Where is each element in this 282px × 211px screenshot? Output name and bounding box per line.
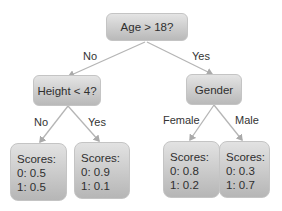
edge-label-gender-male: Male [235, 114, 259, 126]
leaf-height-yes: Scores: 0: 0.9 1: 0.1 [74, 142, 130, 199]
leaf-title: Scores: [81, 151, 129, 165]
leaf-height-no: Scores: 0: 0.5 1: 0.5 [10, 143, 67, 201]
leaf-score-1: 1: 0.7 [226, 178, 269, 192]
leaf-gender-female: Scores: 0: 0.8 1: 0.2 [163, 141, 220, 198]
gender-label: Gender [195, 84, 233, 96]
edge-label-root-yes: Yes [192, 50, 210, 62]
root-label: Age > 18? [121, 21, 174, 33]
root-node: Age > 18? [106, 13, 188, 41]
leaf-score-0: 0: 0.3 [226, 164, 269, 178]
leaf-title: Scores: [170, 150, 219, 164]
leaf-score-0: 0: 0.9 [81, 165, 129, 179]
leaf-gender-male: Scores: 0: 0.3 1: 0.7 [219, 141, 270, 198]
leaf-score-0: 0: 0.5 [17, 166, 66, 180]
gender-node: Gender [186, 74, 242, 105]
leaf-score-1: 1: 0.1 [81, 179, 129, 193]
height-label: Height < 4? [37, 85, 96, 97]
leaf-title: Scores: [226, 150, 269, 164]
leaf-score-1: 1: 0.2 [170, 178, 219, 192]
leaf-score-1: 1: 0.5 [17, 180, 66, 194]
edge-label-gender-female: Female [163, 114, 200, 126]
leaf-title: Scores: [17, 152, 66, 166]
leaf-score-0: 0: 0.8 [170, 164, 219, 178]
edge-label-height-no: No [34, 116, 48, 128]
edge-label-root-no: No [83, 50, 97, 62]
height-node: Height < 4? [33, 75, 101, 106]
edge-label-height-yes: Yes [88, 116, 106, 128]
